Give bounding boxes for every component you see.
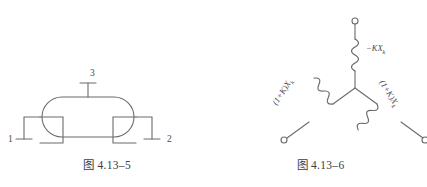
wire-left-upper	[333, 88, 355, 104]
terminal-label-3: 3	[90, 68, 95, 78]
lead-terminal-2	[136, 117, 152, 139]
left-winding-notch	[40, 117, 63, 143]
terminal-label-1: 1	[8, 134, 13, 144]
terminal-label-2: 2	[167, 134, 172, 144]
terminal-1-node	[281, 137, 287, 143]
lead-terminal-1	[24, 117, 40, 139]
wire-right-upper	[355, 88, 377, 104]
inductor-label-top-sub: k	[383, 48, 386, 55]
terminal-2-node	[422, 137, 427, 143]
inductor-left	[311, 76, 335, 106]
inductor-top	[352, 39, 359, 71]
wire-left-lower	[287, 122, 309, 138]
wire-right-lower	[401, 122, 423, 138]
inductor-label-top: −KXk	[366, 43, 385, 55]
figure-4-13-5: 3 1 2 图 4.13–5	[0, 0, 214, 187]
terminal-3-node	[352, 18, 358, 24]
right-winding-notch	[113, 117, 136, 143]
inductor-label-top-main: −KX	[366, 43, 383, 53]
figure-caption-4-13-6: 图 4.13–6	[214, 156, 427, 172]
inductor-right	[355, 102, 379, 132]
figure-caption-4-13-5: 图 4.13–5	[0, 156, 214, 172]
